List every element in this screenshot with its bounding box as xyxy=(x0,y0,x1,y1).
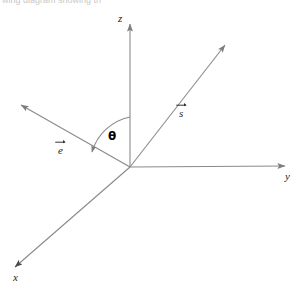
vector-diagram-figure: wing diagram showing th z y x xyxy=(0,0,302,289)
x-axis-line xyxy=(15,167,130,267)
vector-s-letter: s xyxy=(179,108,183,119)
y-axis-label: y xyxy=(285,170,290,182)
z-axis-label: z xyxy=(118,12,122,24)
vector-s-line xyxy=(130,45,225,167)
vector-e-label: e xyxy=(58,145,63,156)
vector-e-letter: e xyxy=(58,145,63,156)
vector-e-glyph-stack: e xyxy=(58,145,63,156)
theta-angle-label: θ xyxy=(108,129,116,143)
vector-s-label: s xyxy=(179,108,183,119)
vector-s-glyph-stack: s xyxy=(179,108,183,119)
x-axis-label: x xyxy=(13,271,18,283)
y-axis-line xyxy=(130,166,285,167)
coordinate-system-drawing xyxy=(0,0,302,289)
